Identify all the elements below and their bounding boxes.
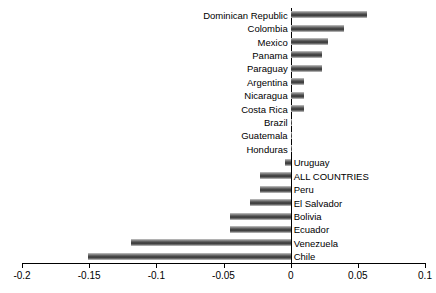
bar xyxy=(291,145,292,152)
bar-row: Mexico xyxy=(22,35,425,48)
bar-category-label: Dominican Republic xyxy=(203,9,287,22)
bar-category-label: Venezuela xyxy=(294,237,338,250)
bar-category-label: Bolivia xyxy=(294,210,322,223)
bar-row: Colombia xyxy=(22,21,425,34)
bar xyxy=(260,172,291,179)
bar xyxy=(291,78,304,85)
bar xyxy=(291,65,322,72)
bar xyxy=(291,11,368,18)
x-axis-tick-label: 0 xyxy=(288,270,294,281)
bar-category-label: Honduras xyxy=(246,143,287,156)
bar-row: Uruguay xyxy=(22,156,425,169)
bar-category-label: Colombia xyxy=(248,22,288,35)
bar xyxy=(291,105,304,112)
x-axis-tick-label: 0.1 xyxy=(418,270,432,281)
bar xyxy=(291,38,329,45)
bar-row: Argentina xyxy=(22,75,425,88)
x-axis-tick xyxy=(156,263,157,268)
x-axis-tick xyxy=(89,263,90,268)
bar-category-label: Paraguay xyxy=(247,62,288,75)
bar xyxy=(285,159,290,166)
bar-category-label: Costa Rica xyxy=(241,103,287,116)
bar-row: Ecuador xyxy=(22,223,425,236)
bar-row: Peru xyxy=(22,182,425,195)
x-axis-tick xyxy=(291,263,292,268)
bar-row: Paraguay xyxy=(22,62,425,75)
bar-chart: Dominican RepublicColombiaMexicoPanamaPa… xyxy=(0,0,436,293)
bar-category-label: Nicaragua xyxy=(244,89,287,102)
bar-row: Chile xyxy=(22,250,425,263)
bar xyxy=(291,132,292,139)
x-axis-tick xyxy=(425,263,426,268)
bar-category-label: Argentina xyxy=(247,76,288,89)
bar-row: Nicaragua xyxy=(22,89,425,102)
bar xyxy=(260,186,291,193)
bar-category-label: Uruguay xyxy=(294,156,330,169)
bar xyxy=(291,25,345,32)
bar xyxy=(230,226,290,233)
bar xyxy=(291,51,322,58)
x-axis-tick-label: -0.2 xyxy=(13,270,30,281)
x-axis-tick-label: -0.15 xyxy=(78,270,101,281)
bar-row: Brazil xyxy=(22,115,425,128)
bar-row: Venezuela xyxy=(22,236,425,249)
x-axis-tick-label: -0.05 xyxy=(212,270,235,281)
x-axis-tick xyxy=(358,263,359,268)
bar xyxy=(250,199,290,206)
bar xyxy=(291,119,292,126)
plot-area: Dominican RepublicColombiaMexicoPanamaPa… xyxy=(22,8,425,263)
bar xyxy=(88,253,291,260)
bar-category-label: ALL COUNTRIES xyxy=(294,170,369,183)
bar-category-label: Mexico xyxy=(258,36,288,49)
bar-category-label: Chile xyxy=(294,250,316,263)
bar xyxy=(131,239,291,246)
bar-row: Bolivia xyxy=(22,209,425,222)
x-axis-tick-label: 0.05 xyxy=(348,270,367,281)
bar-row: ALL COUNTRIES xyxy=(22,169,425,182)
bar-row: El Salvador xyxy=(22,196,425,209)
bar-category-label: Guatemala xyxy=(241,129,287,142)
bar xyxy=(230,213,290,220)
bar-row: Guatemala xyxy=(22,129,425,142)
x-axis-tick xyxy=(22,263,23,268)
bar-category-label: Brazil xyxy=(264,116,288,129)
bar-row: Honduras xyxy=(22,142,425,155)
bar-row: Dominican Republic xyxy=(22,8,425,21)
bar-category-label: Peru xyxy=(294,183,314,196)
bar-category-label: Panama xyxy=(252,49,287,62)
x-axis-tick xyxy=(224,263,225,268)
bar xyxy=(291,92,304,99)
bar-category-label: Ecuador xyxy=(294,223,329,236)
bar-row: Panama xyxy=(22,48,425,61)
bar-category-label: El Salvador xyxy=(294,197,343,210)
x-axis-tick-label: -0.1 xyxy=(148,270,165,281)
bar-row: Costa Rica xyxy=(22,102,425,115)
